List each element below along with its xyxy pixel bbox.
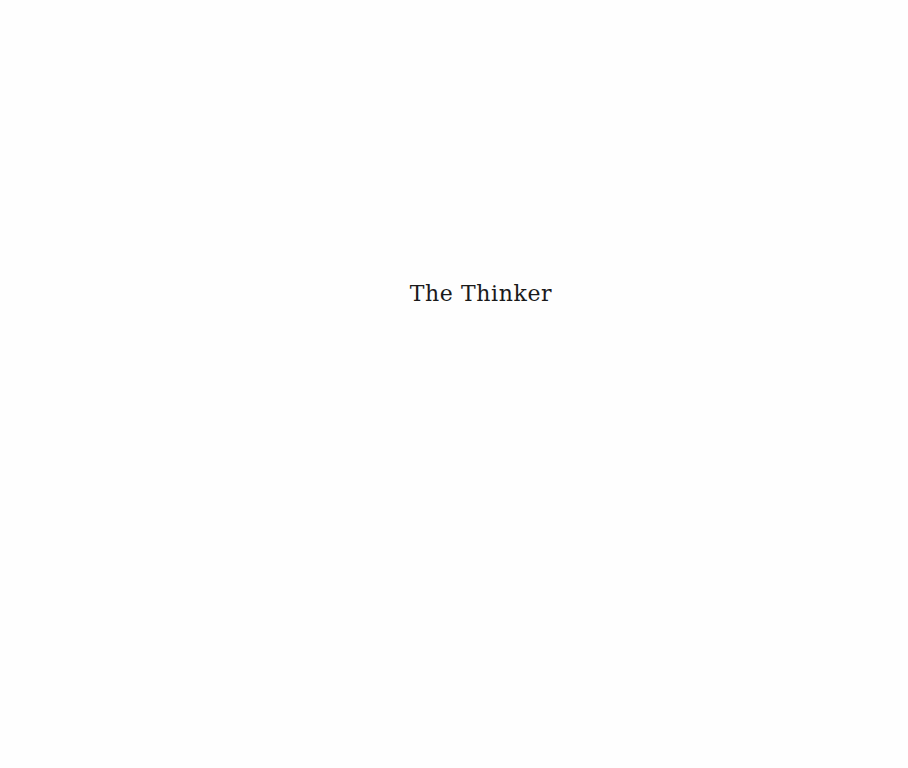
half-title-heading: The Thinker bbox=[0, 283, 908, 305]
book-page: The Thinker bbox=[0, 0, 908, 768]
